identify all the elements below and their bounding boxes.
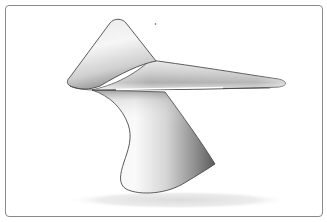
sculpture-render [0,0,327,222]
speck [155,23,157,25]
pedestal [92,90,215,193]
ground-shadow [66,191,290,209]
